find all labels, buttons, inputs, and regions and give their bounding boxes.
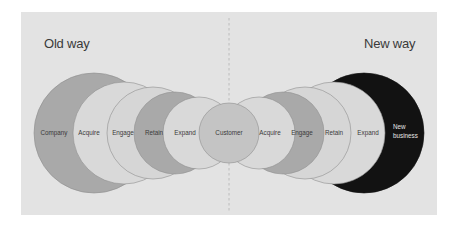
new-way-heading: New way <box>364 36 415 51</box>
new-business-label-line1: New <box>393 123 406 130</box>
new-business-label-line2: business <box>393 132 418 139</box>
customer-label: Customer <box>215 129 242 136</box>
old-expand-label: Expand <box>174 129 196 137</box>
new-expand-label: Expand <box>357 129 379 137</box>
old-way-heading: Old way <box>44 36 90 51</box>
old-retain-label: Retain <box>145 129 164 136</box>
new-acquire-label: Acquire <box>259 129 281 137</box>
old-acquire-label: Acquire <box>78 129 100 137</box>
old-engage-label: Engage <box>112 129 134 137</box>
customer-lifecycle-diagram: Company Acquire Engage Retain Expand Cus… <box>0 0 459 226</box>
new-engage-label: Engage <box>291 129 313 137</box>
old-company-label: Company <box>41 129 69 137</box>
new-retain-label: Retain <box>325 129 344 136</box>
